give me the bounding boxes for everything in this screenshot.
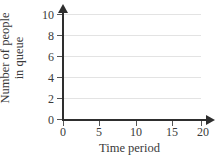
y-axis-line [62, 12, 64, 121]
y-tick-8 [57, 35, 62, 36]
y-tick-4 [57, 77, 62, 78]
y-tick-6 [57, 56, 62, 57]
y-tick-10 [57, 14, 62, 15]
plot-area [63, 14, 201, 120]
gridline-y-10 [63, 14, 201, 15]
x-tick-label-15: 15 [160, 126, 184, 138]
y-tick-label-8: 8 [34, 30, 54, 42]
x-tick-label-20: 20 [191, 126, 215, 138]
y-tick-label-2: 2 [34, 93, 54, 105]
gridline-y-6 [63, 56, 201, 57]
y-axis-title: Number of people in queue [0, 0, 26, 120]
gridline-y-2 [63, 98, 201, 99]
gridline-y-4 [63, 77, 201, 78]
x-tick-label-5: 5 [87, 126, 111, 138]
y-tick-label-6: 6 [34, 51, 54, 63]
y-tick-label-0: 0 [34, 114, 54, 126]
y-tick-0 [57, 119, 62, 120]
y-tick-label-10: 10 [34, 9, 54, 21]
y-tick-label-4: 4 [34, 72, 54, 84]
y-axis-title-line2: in queue [12, 0, 26, 120]
x-axis-title: Time period [0, 141, 217, 155]
y-axis-arrow-icon [58, 4, 68, 13]
gridline-y-8 [63, 35, 201, 36]
y-axis-title-line1: Number of people [0, 0, 12, 120]
x-tick-label-10: 10 [124, 126, 148, 138]
y-tick-2 [57, 98, 62, 99]
x-axis-arrow-icon [206, 115, 215, 125]
queue-chart: 10 8 6 4 2 0 0 5 10 15 20 Number of peop… [0, 0, 217, 163]
x-tick-label-0: 0 [51, 126, 75, 138]
